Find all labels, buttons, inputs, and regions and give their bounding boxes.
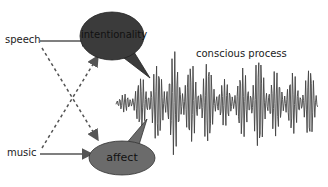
intentionality-label: intentionality [81, 29, 143, 40]
intentionality-bubble [80, 12, 150, 78]
waveform [116, 52, 318, 155]
affect-label: affect [90, 151, 154, 164]
affect-bubble [89, 119, 155, 175]
music-to-intentionality-dashed-arrow [42, 56, 98, 148]
music-label: music [7, 147, 37, 158]
speech-to-affect-dashed-arrow [42, 48, 98, 140]
speech-label: speech [5, 34, 41, 45]
conscious-process-label: conscious process [196, 48, 287, 59]
diagram-canvas [0, 0, 328, 187]
